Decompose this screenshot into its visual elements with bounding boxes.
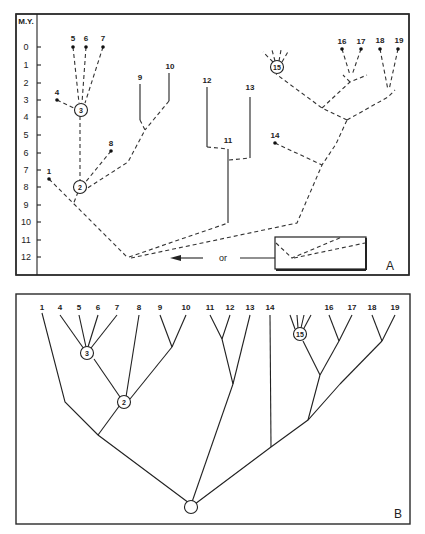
panel-b-node-2: 2 xyxy=(118,396,131,409)
time-axis-ticks: 0 1 2 3 4 5 6 7 8 9 10 11 12 xyxy=(21,42,41,262)
panel-a: M.Y. 0 1 2 3 4 5 6 7 8 9 10 11 12 xyxy=(16,14,409,275)
axis-title: M.Y. xyxy=(18,17,34,26)
tip-label-1: 1 xyxy=(40,303,45,312)
panel-b: 1 4 5 6 7 8 9 10 11 12 13 14 16 17 18 19… xyxy=(16,294,410,524)
tip-label-18: 18 xyxy=(368,303,377,312)
taxon-label-13: 13 xyxy=(246,83,255,92)
svg-text:3: 3 xyxy=(85,350,89,357)
tick-label-5: 5 xyxy=(23,130,28,140)
taxon-label-1: 1 xyxy=(47,167,52,176)
tick-label-12: 12 xyxy=(21,252,31,262)
taxon-label-14: 14 xyxy=(271,131,280,140)
tip-label-16: 16 xyxy=(325,303,334,312)
tip-label-7: 7 xyxy=(115,303,120,312)
taxon-label-18: 18 xyxy=(376,36,385,45)
tick-label-4: 4 xyxy=(23,112,28,122)
svg-text:15: 15 xyxy=(296,331,304,338)
panel-b-node-3: 3 xyxy=(81,347,94,360)
tick-label-8: 8 xyxy=(23,182,28,192)
tip-label-8: 8 xyxy=(137,303,142,312)
taxon-label-12: 12 xyxy=(203,76,212,85)
panel-a-dashed-lineages xyxy=(49,47,398,258)
inset-arrow: or xyxy=(170,253,275,263)
panel-b-tree xyxy=(42,313,395,504)
taxon-label-16: 16 xyxy=(338,37,347,46)
svg-text:2: 2 xyxy=(122,399,126,406)
panel-b-tip-labels: 1 4 5 6 7 8 9 10 11 12 13 14 16 17 18 19 xyxy=(40,303,400,312)
ancestor-node-2: 2 xyxy=(74,181,87,194)
taxon-label-8: 8 xyxy=(109,139,114,148)
tick-label-3: 3 xyxy=(23,95,28,105)
svg-text:2: 2 xyxy=(78,184,82,191)
phylogeny-figure: M.Y. 0 1 2 3 4 5 6 7 8 9 10 11 12 xyxy=(0,0,425,534)
panel-a-frame xyxy=(16,14,409,275)
ancestor-node-3: 3 xyxy=(75,104,88,117)
taxon-label-17: 17 xyxy=(357,37,366,46)
tip-label-9: 9 xyxy=(158,303,163,312)
panel-b-label: B xyxy=(394,507,402,521)
tip-label-4: 4 xyxy=(58,303,63,312)
tip-label-12: 12 xyxy=(226,303,235,312)
tip-label-10: 10 xyxy=(182,303,191,312)
taxon-label-7: 7 xyxy=(101,34,106,43)
tick-label-2: 2 xyxy=(23,78,28,88)
tick-label-11: 11 xyxy=(21,235,30,245)
svg-text:3: 3 xyxy=(79,107,83,114)
tick-label-9: 9 xyxy=(23,200,28,210)
taxon-label-10: 10 xyxy=(166,62,175,71)
alternative-root-inset xyxy=(275,237,366,270)
taxon-label-11: 11 xyxy=(224,136,233,145)
panel-b-node-15: 15 xyxy=(294,328,307,341)
tick-label-6: 6 xyxy=(23,148,28,158)
ancestor-node-15: 15 xyxy=(271,61,284,74)
panel-a-solid-lineages xyxy=(140,73,250,223)
panel-a-border xyxy=(16,14,409,275)
panel-b-border xyxy=(16,294,410,524)
tick-label-0: 0 xyxy=(23,42,28,52)
tip-label-11: 11 xyxy=(206,303,215,312)
tick-label-1: 1 xyxy=(23,60,28,70)
tip-label-14: 14 xyxy=(266,303,275,312)
tip-label-5: 5 xyxy=(77,303,82,312)
tick-label-10: 10 xyxy=(21,217,31,227)
svg-text:15: 15 xyxy=(273,64,281,71)
panel-b-root-node xyxy=(185,501,198,514)
taxon-label-9: 9 xyxy=(138,73,143,82)
taxon-label-6: 6 xyxy=(84,34,89,43)
tip-label-17: 17 xyxy=(348,303,357,312)
taxon-label-4: 4 xyxy=(55,88,60,97)
taxon-label-19: 19 xyxy=(395,36,404,45)
tick-label-7: 7 xyxy=(23,165,28,175)
inset-or-label: or xyxy=(219,253,227,263)
panel-a-label: A xyxy=(386,259,394,273)
tip-label-19: 19 xyxy=(391,303,400,312)
tip-label-6: 6 xyxy=(96,303,101,312)
taxon-label-5: 5 xyxy=(71,34,76,43)
tip-label-13: 13 xyxy=(246,303,255,312)
